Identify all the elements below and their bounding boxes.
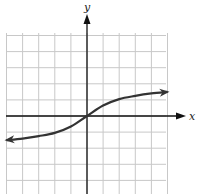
y-axis-label: y: [83, 1, 91, 14]
axes: [6, 14, 186, 194]
x-axis-arrow-icon: [176, 113, 186, 120]
graph: x y: [0, 0, 197, 194]
x-axis-label: x: [189, 110, 196, 123]
y-axis-arrow-icon: [84, 14, 91, 24]
